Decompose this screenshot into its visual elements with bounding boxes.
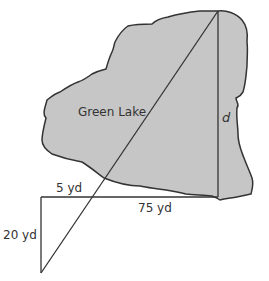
lake-label: Green Lake: [78, 105, 146, 119]
unknown-d-label: d: [222, 110, 231, 125]
segment-20yd-label: 20 yd: [3, 228, 37, 242]
lake-shape: [42, 11, 253, 200]
segment-5yd-label: 5 yd: [56, 181, 82, 195]
segment-75yd-label: 75 yd: [138, 201, 172, 215]
green-lake-diagram: Green Lake d 5 yd 75 yd 20 yd: [0, 0, 269, 281]
